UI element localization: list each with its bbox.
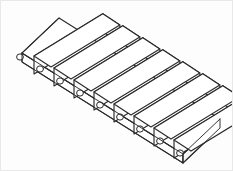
technical-drawing-svg: [1, 1, 233, 171]
base-plate-hole-5: [97, 102, 104, 108]
figure-frame: Isometric line drawing of stepped rib as…: [0, 0, 233, 171]
base-plate-hole-2: [37, 66, 44, 72]
